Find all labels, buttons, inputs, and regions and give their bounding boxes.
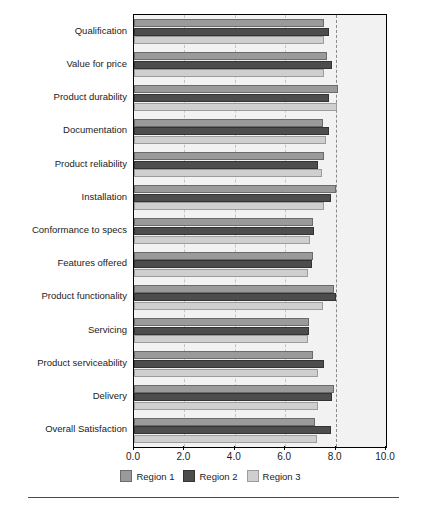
plot-area bbox=[133, 14, 387, 448]
chart-figure: QualificationValue for priceProduct dura… bbox=[0, 0, 421, 513]
bar-group bbox=[134, 19, 386, 44]
x-tick-mark bbox=[335, 446, 336, 450]
category-label: Product durability bbox=[54, 91, 127, 102]
bar bbox=[134, 28, 329, 36]
x-tick-label: 4.0 bbox=[214, 451, 254, 462]
bar-group bbox=[134, 152, 386, 177]
bar bbox=[134, 61, 332, 69]
category-label: Value for price bbox=[66, 58, 127, 69]
bar bbox=[134, 260, 312, 268]
bar bbox=[134, 293, 336, 301]
category-label: Installation bbox=[82, 191, 127, 202]
bar bbox=[134, 335, 308, 343]
legend-swatch-icon bbox=[120, 470, 132, 482]
legend-item[interactable]: Region 2 bbox=[183, 470, 237, 482]
plot-inner bbox=[134, 15, 386, 447]
x-tick-label: 8.0 bbox=[315, 451, 355, 462]
bar-group bbox=[134, 318, 386, 343]
x-tick-mark bbox=[133, 446, 134, 450]
x-tick-label: 10.0 bbox=[365, 451, 405, 462]
bar bbox=[134, 36, 324, 44]
x-tick-label: 6.0 bbox=[264, 451, 304, 462]
category-label: Features offered bbox=[57, 257, 127, 268]
legend-label: Region 2 bbox=[199, 471, 237, 482]
bar bbox=[134, 236, 310, 244]
bar-group bbox=[134, 85, 386, 110]
bar bbox=[134, 318, 309, 326]
chart-legend: Region 1Region 2Region 3 bbox=[0, 470, 421, 482]
legend-swatch-icon bbox=[183, 470, 195, 482]
legend-label: Region 1 bbox=[136, 471, 174, 482]
bar-group bbox=[134, 252, 386, 277]
footer-divider-rule bbox=[28, 497, 399, 498]
bar bbox=[134, 302, 323, 310]
bar bbox=[134, 202, 324, 210]
bar bbox=[134, 360, 324, 368]
category-label: Product reliability bbox=[55, 158, 127, 169]
bar bbox=[134, 161, 318, 169]
category-label: Qualification bbox=[75, 25, 127, 36]
bar bbox=[134, 351, 313, 359]
bar bbox=[134, 94, 329, 102]
bar bbox=[134, 402, 318, 410]
bar-group bbox=[134, 418, 386, 443]
category-label: Delivery bbox=[93, 390, 127, 401]
x-tick-label: 2.0 bbox=[163, 451, 203, 462]
x-tick-mark bbox=[234, 446, 235, 450]
bar-group bbox=[134, 218, 386, 243]
x-tick-mark bbox=[183, 446, 184, 450]
bar bbox=[134, 136, 326, 144]
bar bbox=[134, 218, 313, 226]
bar-group bbox=[134, 385, 386, 410]
category-label: Conformance to specs bbox=[32, 224, 127, 235]
bar bbox=[134, 127, 329, 135]
category-label: Documentation bbox=[63, 124, 127, 135]
x-tick-mark bbox=[385, 446, 386, 450]
x-tick-label: 0.0 bbox=[113, 451, 153, 462]
legend-item[interactable]: Region 1 bbox=[120, 470, 174, 482]
bar bbox=[134, 85, 338, 93]
bar bbox=[134, 285, 334, 293]
legend-label: Region 3 bbox=[263, 471, 301, 482]
legend-item[interactable]: Region 3 bbox=[247, 470, 301, 482]
bar bbox=[134, 19, 324, 27]
category-label: Product serviceability bbox=[37, 357, 127, 368]
category-label: Overall Satisfaction bbox=[45, 423, 127, 434]
bar bbox=[134, 418, 315, 426]
bar bbox=[134, 152, 324, 160]
bar bbox=[134, 194, 331, 202]
bar bbox=[134, 327, 309, 335]
bar bbox=[134, 426, 331, 434]
bar bbox=[134, 385, 334, 393]
bar bbox=[134, 435, 317, 443]
bar bbox=[134, 52, 327, 60]
bar-group bbox=[134, 119, 386, 144]
bar-group bbox=[134, 351, 386, 376]
bar bbox=[134, 269, 308, 277]
bar bbox=[134, 185, 336, 193]
bar bbox=[134, 252, 313, 260]
category-label: Product functionality bbox=[41, 290, 127, 301]
bar-group bbox=[134, 52, 386, 77]
bar-group bbox=[134, 285, 386, 310]
bar bbox=[134, 103, 337, 111]
bar bbox=[134, 393, 332, 401]
bar bbox=[134, 227, 314, 235]
bar bbox=[134, 169, 322, 177]
x-tick-mark bbox=[284, 446, 285, 450]
bar bbox=[134, 369, 318, 377]
bar bbox=[134, 119, 323, 127]
legend-swatch-icon bbox=[247, 470, 259, 482]
category-label: Servicing bbox=[88, 324, 127, 335]
bar bbox=[134, 69, 324, 77]
bar-group bbox=[134, 185, 386, 210]
